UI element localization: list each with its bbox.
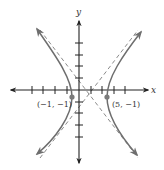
vertex-label-left: (−1, −1) <box>37 100 72 109</box>
hyperbola-right-branch <box>107 32 141 155</box>
vertex-label-right: (5, −1) <box>112 100 140 109</box>
y-axis-label: y <box>75 7 82 17</box>
vertex-dot-left <box>69 94 74 99</box>
hyperbola-graph: y x (−1, −1) (5, −1) <box>0 0 164 170</box>
x-axis-label: x <box>151 85 156 95</box>
vertex-dot-right <box>104 94 109 99</box>
